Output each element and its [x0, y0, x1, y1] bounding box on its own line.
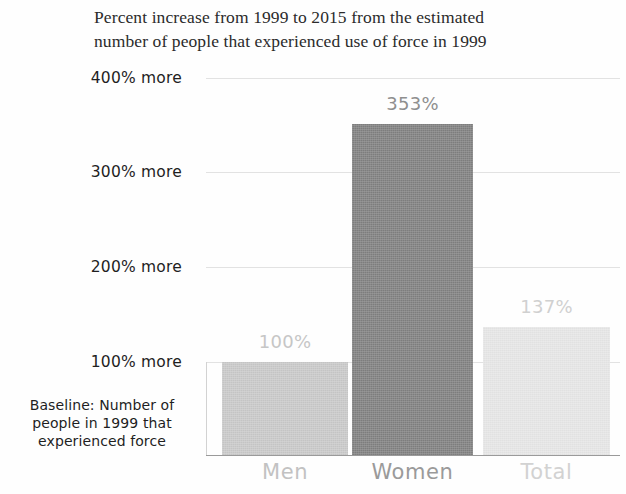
bar-value-women: 353% [352, 93, 473, 114]
bar-value-total: 137% [483, 296, 610, 317]
x-axis-label-total: Total [483, 460, 610, 484]
y-axis-tick-300: 300% more [2, 163, 182, 181]
x-axis-label-women: Women [352, 460, 473, 484]
gridline-400 [206, 78, 620, 79]
bar-texture [352, 124, 473, 456]
y-axis-tick-200: 200% more [2, 258, 182, 276]
y-axis-line [206, 362, 207, 456]
y-axis-tick-100: 100% more [2, 353, 182, 371]
bar-total[interactable] [483, 327, 610, 456]
bar-women[interactable] [352, 124, 473, 456]
x-axis-label-men: Men [222, 460, 348, 484]
bar-texture [483, 327, 610, 456]
y-axis-tick-400: 400% more [2, 69, 182, 87]
baseline-annotation: Baseline: Number of people in 1999 that … [2, 396, 202, 450]
chart-container: Percent increase from 1999 to 2015 from … [0, 0, 626, 494]
x-axis-line [206, 455, 620, 456]
bar-value-men: 100% [222, 331, 348, 352]
bar-texture [222, 362, 348, 456]
plot-area [206, 60, 620, 456]
bar-men[interactable] [222, 362, 348, 456]
